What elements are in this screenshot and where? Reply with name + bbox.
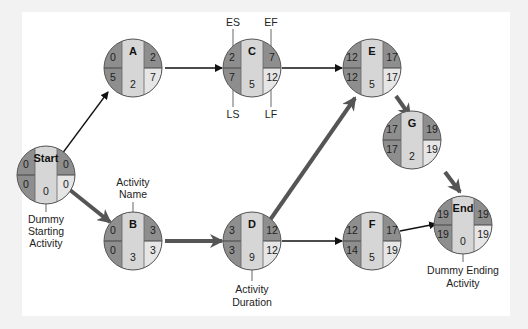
early-start: 3 (229, 224, 235, 236)
late-start: 19 (437, 228, 449, 240)
late-finish: 19 (477, 228, 489, 240)
early-start: 0 (110, 224, 116, 236)
legend-dummy-start-3: Activity (29, 237, 63, 249)
early-finish: 2 (150, 51, 156, 63)
early-finish: 19 (426, 123, 438, 135)
legend-lf-label: LF (265, 108, 277, 120)
early-finish: 3 (150, 224, 156, 236)
activity-name: B (129, 218, 137, 230)
legend-activity-name-2: Name (119, 188, 147, 200)
late-start: 17 (386, 143, 398, 155)
activity-duration: 9 (249, 251, 255, 263)
early-finish: 12 (266, 224, 278, 236)
activity-name: C (248, 45, 256, 57)
activity-name: G (408, 117, 417, 129)
activity-duration: 5 (369, 78, 375, 90)
early-finish: 0 (63, 158, 69, 170)
legend-ls-label: LS (227, 108, 240, 120)
late-finish: 12 (266, 71, 278, 83)
late-finish: 12 (266, 244, 278, 256)
late-finish: 17 (386, 71, 398, 83)
node-end: End191919190 (434, 196, 503, 254)
early-start: 17 (386, 123, 398, 135)
legend-es-label: ES (226, 16, 240, 28)
early-start: 0 (110, 51, 116, 63)
early-finish: 7 (269, 51, 275, 63)
late-finish: 0 (63, 178, 69, 190)
early-start: 12 (346, 51, 358, 63)
late-finish: 3 (150, 244, 156, 256)
activity-duration: 5 (249, 78, 255, 90)
late-start: 0 (23, 178, 29, 190)
legend-activity-name: Activity (116, 176, 150, 188)
late-start: 0 (110, 244, 116, 256)
legend-dummy-start-2: Starting (28, 225, 64, 237)
activity-name: D (248, 218, 256, 230)
edge-start-b (70, 190, 110, 222)
activity-name: End (453, 202, 474, 214)
legend-dummy-end: Dummy Ending (427, 264, 499, 276)
late-start: 12 (346, 71, 358, 83)
early-start: 2 (229, 51, 235, 63)
activity-duration: 5 (369, 251, 375, 263)
activity-duration: 2 (409, 150, 415, 162)
late-finish: 19 (426, 143, 438, 155)
activity-duration: 2 (130, 78, 136, 90)
activity-name: F (369, 218, 376, 230)
activity-name: Start (33, 152, 58, 164)
early-start: 12 (346, 224, 358, 236)
node-e: E121712175 (343, 39, 412, 97)
legend-dummy-start: Dummy (28, 213, 65, 225)
node-g: G171917192 (383, 111, 452, 169)
early-finish: 17 (386, 51, 398, 63)
late-start: 14 (346, 244, 358, 256)
legend-activity-duration-2: Duration (232, 296, 272, 308)
late-finish: 7 (150, 71, 156, 83)
activity-name: E (368, 45, 375, 57)
node-c: C277125 (223, 39, 292, 97)
activity-duration: 0 (460, 235, 466, 247)
late-start: 7 (229, 71, 235, 83)
node-a: A02572 (104, 39, 173, 97)
early-start: 19 (437, 208, 449, 220)
late-finish: 19 (386, 244, 398, 256)
early-finish: 17 (386, 224, 398, 236)
edge-d-e (270, 98, 355, 220)
legend-ef-label: EF (264, 16, 277, 28)
late-start: 3 (229, 244, 235, 256)
node-f: F121714195 (343, 212, 412, 270)
network-diagram: ES EF LS LF Activity Name Activity Durat… (0, 0, 528, 329)
legend-activity-duration: Activity (235, 283, 269, 295)
activity-name: A (129, 45, 137, 57)
activity-duration: 3 (130, 251, 136, 263)
early-start: 0 (23, 158, 29, 170)
late-start: 5 (110, 71, 116, 83)
edge-g-end (445, 172, 460, 192)
edge-f-end (400, 224, 436, 231)
node-b: B03033 (104, 212, 173, 270)
node-d: D3123129 (223, 212, 292, 270)
legend-dummy-end-2: Activity (446, 277, 480, 289)
activity-duration: 0 (43, 185, 49, 197)
early-finish: 19 (477, 208, 489, 220)
